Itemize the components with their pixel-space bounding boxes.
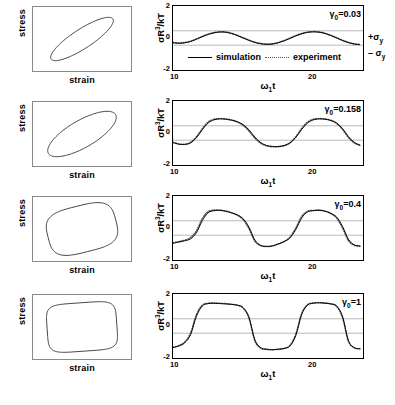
figure-container: stressstrainσR3/kT20-21020γ0=0.03+σy– σy… bbox=[0, 0, 395, 405]
waveform-y-tick--2: -2 bbox=[156, 352, 170, 361]
waveform-y-tick--2: -2 bbox=[156, 159, 170, 168]
legend-simulation-label: simulation bbox=[216, 52, 261, 62]
figure-row-1: stressstrainσR3/kT20-21020γ0=0.03+σy– σy… bbox=[0, 0, 395, 100]
figure-row-4: stressstrainσR3/kT20-21020γ0=1ω1t bbox=[0, 288, 395, 388]
lissajous-y-axis-label: stress bbox=[17, 281, 27, 341]
experiment-curve-4 bbox=[173, 303, 360, 350]
waveform-plot-area-4 bbox=[172, 293, 364, 359]
gamma-annotation-1: γ0=0.03 bbox=[330, 9, 361, 21]
experiment-curve-2 bbox=[173, 119, 360, 147]
waveform-y-tick-0: 0 bbox=[156, 222, 170, 231]
waveform-y-tick-2: 2 bbox=[156, 96, 170, 105]
gamma-annotation-4: γ0=1 bbox=[342, 297, 361, 309]
lissajous-plot-area-3 bbox=[32, 196, 132, 262]
waveform-x-axis-label: ω1t bbox=[172, 368, 364, 381]
gamma-value: =0.03 bbox=[338, 9, 361, 19]
waveform-panel-2: σR3/kT20-21020γ0=0.158ω1t bbox=[148, 95, 395, 195]
legend-experiment-line-icon bbox=[265, 57, 289, 58]
waveform-panel-4: σR3/kT20-21020γ0=1ω1t bbox=[148, 288, 395, 388]
lissajous-panel-4: stressstrain bbox=[0, 288, 148, 388]
sigma-plus-symbol: +σ bbox=[368, 32, 379, 42]
lissajous-y-axis-label: stress bbox=[17, 0, 27, 53]
waveform-y-tick--2: -2 bbox=[156, 64, 170, 73]
waveform-y-tick--2: -2 bbox=[156, 254, 170, 263]
figure-row-2: stressstrainσR3/kT20-21020γ0=0.158ω1t bbox=[0, 95, 395, 195]
lissajous-plot-area-1 bbox=[32, 6, 132, 72]
gamma-value: =1 bbox=[351, 297, 361, 307]
gamma-value: =0.158 bbox=[333, 104, 361, 114]
lissajous-panel-3: stressstrain bbox=[0, 190, 148, 290]
lissajous-panel-1: stressstrain bbox=[0, 0, 148, 100]
legend-experiment-label: experiment bbox=[293, 52, 341, 62]
sigma-y-minus-label: – σy bbox=[368, 48, 385, 60]
simulation-curve-3 bbox=[173, 210, 360, 246]
waveform-y-tick-2: 2 bbox=[156, 191, 170, 200]
waveform-y-tick-2: 2 bbox=[156, 1, 170, 10]
gamma-value: =0.4 bbox=[343, 199, 361, 209]
simulation-curve-2 bbox=[173, 119, 360, 147]
sigma-y-plus-label: +σy bbox=[368, 32, 383, 44]
lissajous-curve-2 bbox=[33, 102, 131, 166]
waveform-panel-1: σR3/kT20-21020γ0=0.03+σy– σysimulationex… bbox=[148, 0, 395, 100]
gamma-annotation-3: γ0=0.4 bbox=[335, 199, 361, 211]
sigma-plus-subscript: y bbox=[379, 37, 383, 44]
waveform-y-tick-0: 0 bbox=[156, 320, 170, 329]
waveform-panel-3: σR3/kT20-21020γ0=0.4ω1t bbox=[148, 190, 395, 290]
waveform-x-axis-label: ω1t bbox=[172, 175, 364, 188]
simulation-curve-1 bbox=[173, 32, 360, 45]
waveform-y-tick-0: 0 bbox=[156, 127, 170, 136]
waveform-x-axis-label: ω1t bbox=[172, 80, 364, 93]
lissajous-plot-area-2 bbox=[32, 101, 132, 167]
sigma-minus-symbol: – σ bbox=[368, 48, 382, 58]
lissajous-y-axis-label: stress bbox=[17, 88, 27, 148]
lissajous-x-axis-label: strain bbox=[32, 363, 132, 373]
lissajous-x-axis-label: strain bbox=[32, 170, 132, 180]
sigma-minus-subscript: y bbox=[382, 53, 386, 60]
simulation-curve-4 bbox=[173, 303, 360, 350]
lissajous-x-axis-label: strain bbox=[32, 265, 132, 275]
lissajous-y-axis-label: stress bbox=[17, 183, 27, 243]
gamma-annotation-2: γ0=0.158 bbox=[325, 104, 361, 116]
lissajous-curve-4 bbox=[33, 295, 131, 359]
waveform-y-tick-0: 0 bbox=[156, 32, 170, 41]
lissajous-plot-area-4 bbox=[32, 294, 132, 360]
waveform-legend: simulationexperiment bbox=[188, 52, 341, 62]
experiment-curve-3 bbox=[173, 210, 360, 247]
waveform-svg-4 bbox=[173, 294, 363, 358]
lissajous-curve-1 bbox=[33, 7, 131, 71]
experiment-curve-1 bbox=[173, 32, 360, 45]
lissajous-panel-2: stressstrain bbox=[0, 95, 148, 195]
lissajous-x-axis-label: strain bbox=[32, 75, 132, 85]
waveform-y-tick-2: 2 bbox=[156, 289, 170, 298]
lissajous-curve-3 bbox=[33, 197, 131, 261]
legend-simulation-line-icon bbox=[188, 57, 212, 58]
waveform-x-axis-label: ω1t bbox=[172, 270, 364, 283]
figure-row-3: stressstrainσR3/kT20-21020γ0=0.4ω1t bbox=[0, 190, 395, 290]
